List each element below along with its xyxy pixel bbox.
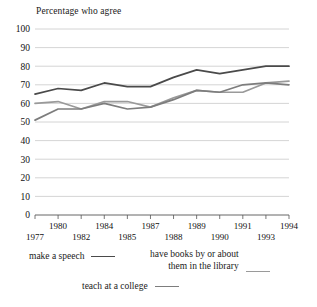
x-axis-tick-label: 1987 (141, 221, 160, 231)
x-axis-tick-label: 1994 (280, 221, 299, 231)
legend-item-have-books: have books by or about them in the libra… (150, 248, 270, 272)
y-axis-tick-label: 20 (21, 173, 31, 183)
plot-area: 1009080706050403020100 19771980198219841… (0, 0, 317, 248)
y-axis-tick-label: 10 (21, 192, 31, 202)
y-axis-tick-label: 30 (21, 155, 31, 165)
y-axis-tick-label: 90 (21, 43, 31, 53)
series-lines (35, 66, 289, 120)
y-axis-tick-label: 40 (21, 136, 31, 146)
legend-label-have-books-line2: them in the library (168, 261, 238, 271)
gridlines (35, 29, 289, 215)
legend-swatch-have-books (246, 271, 270, 272)
legend-label-make-a-speech: make a speech (29, 250, 84, 262)
x-axis-tick-labels: 1977198019821984198519871988198919901991… (26, 221, 299, 242)
legend-label-have-books: have books by or about them in the libra… (150, 248, 239, 272)
legend-item-teach-at-a-college: teach at a college (82, 280, 179, 292)
legend-label-teach-at-a-college: teach at a college (82, 280, 148, 292)
x-axis-tick-label: 1980 (49, 221, 68, 231)
x-axis-tick-label: 1993 (257, 232, 276, 242)
y-axis-tick-label: 60 (21, 99, 31, 109)
y-axis-tick-labels: 1009080706050403020100 (16, 24, 31, 220)
x-axis-tick-label: 1989 (188, 221, 207, 231)
x-axis-tick-label: 1991 (234, 221, 252, 231)
x-axis-tick-label: 1984 (95, 221, 114, 231)
line-chart: Percentage who agree 1009080706050403020… (0, 0, 317, 307)
legend-item-make-a-speech: make a speech (29, 250, 115, 262)
legend-swatch-make-a-speech (91, 256, 115, 257)
x-axis-tick-label: 1977 (26, 232, 45, 242)
y-axis-tick-label: 70 (21, 80, 31, 90)
x-axis-tick-label: 1990 (211, 232, 230, 242)
y-axis-tick-label: 0 (25, 210, 30, 220)
x-axis-tick-label: 1988 (165, 232, 184, 242)
x-axis-ticks (35, 215, 289, 219)
x-axis-tick-label: 1985 (118, 232, 137, 242)
series-line (35, 81, 289, 109)
x-axis-tick-label: 1982 (72, 232, 90, 242)
chart-legend: make a speech have books by or about the… (0, 248, 317, 307)
legend-label-have-books-line1: have books by or about (150, 249, 239, 259)
legend-swatch-teach-at-a-college (155, 286, 179, 287)
series-line (35, 66, 289, 94)
y-axis-tick-label: 80 (21, 62, 31, 72)
y-axis-tick-label: 50 (21, 117, 31, 127)
y-axis-tick-label: 100 (16, 24, 31, 34)
